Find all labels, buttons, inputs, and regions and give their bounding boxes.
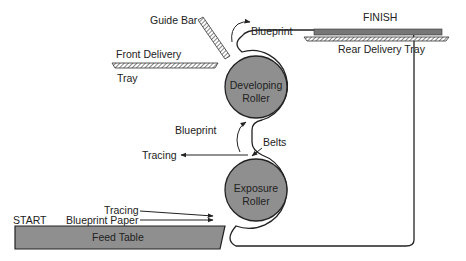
tray-label: Tray bbox=[117, 73, 138, 84]
blueprint-paper-label: Blueprint Paper bbox=[66, 215, 138, 226]
rear-delivery-tray bbox=[304, 37, 449, 41]
front-delivery-label: Front Delivery bbox=[116, 49, 181, 60]
exposure-roller-label: Exposure Roller bbox=[225, 182, 287, 208]
exposure-roller-line2: Roller bbox=[242, 195, 269, 207]
guide-bar-label: Guide Bar bbox=[150, 15, 197, 26]
blueprint-mid-arrow bbox=[237, 122, 246, 152]
feed-table-label: Feed Table bbox=[92, 232, 144, 243]
exposure-roller-line1: Exposure bbox=[234, 182, 278, 194]
blueprint-top-label: Blueprint bbox=[251, 26, 292, 37]
guide-bar bbox=[198, 17, 230, 59]
finish-label: FINISH bbox=[363, 12, 397, 23]
tracing-out-label: Tracing bbox=[142, 150, 177, 161]
finished-blueprints-stack bbox=[314, 29, 442, 35]
developing-roller-line1: Developing bbox=[230, 79, 283, 91]
rear-delivery-tray-label: Rear Delivery Tray bbox=[338, 44, 425, 55]
developing-roller-label: Developing Roller bbox=[225, 79, 287, 105]
blueprint-mid-label: Blueprint bbox=[175, 125, 216, 136]
belts-label: Belts bbox=[263, 137, 286, 148]
developing-roller-line2: Roller bbox=[242, 92, 269, 104]
start-label: START bbox=[13, 215, 46, 226]
front-delivery-tray bbox=[112, 63, 218, 68]
tracing-in-arrow bbox=[140, 211, 213, 216]
